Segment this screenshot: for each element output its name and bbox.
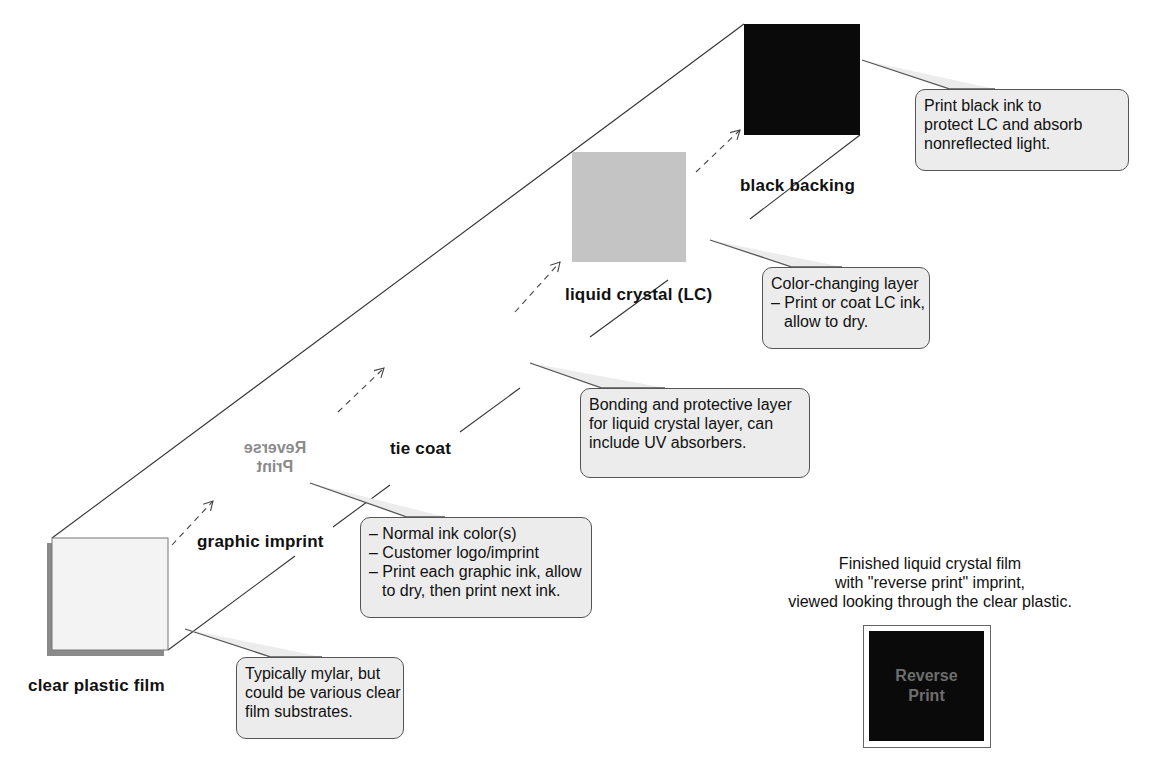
- imprint-line-2: Print: [235, 457, 315, 476]
- finished-sample-black: Reverse Print: [869, 631, 984, 741]
- label-tie-coat: tie coat: [390, 439, 451, 459]
- callout-line: nonreflected light.: [924, 134, 1120, 153]
- callout-line: – Print or coat LC ink,: [771, 293, 921, 312]
- callout-line: allow to dry.: [771, 312, 921, 331]
- callout-line: Print black ink to: [924, 96, 1120, 115]
- callout-line: could be various clear: [245, 683, 395, 702]
- callout-line: Typically mylar, but: [245, 664, 395, 683]
- callout-line: to dry, then print next ink.: [369, 581, 583, 600]
- pointer-tie: [530, 363, 665, 388]
- imprint-line-1: Reverse: [235, 438, 315, 457]
- pointer-graphic: [310, 483, 445, 517]
- clear-film-square: [47, 538, 168, 656]
- callout-line: – Print each graphic ink, allow: [369, 562, 583, 581]
- callout-line: Color-changing layer: [771, 274, 921, 293]
- sample-text-line: Reverse: [895, 666, 957, 686]
- callout-line: – Normal ink color(s): [369, 524, 583, 543]
- callout-line: Bonding and protective layer: [589, 395, 801, 414]
- lc-square: [572, 152, 686, 262]
- callout-clear-plastic-film: Typically mylar, but could be various cl…: [236, 657, 404, 739]
- pointer-black: [862, 60, 995, 89]
- callout-black-backing: Print black ink to protect LC and absorb…: [915, 89, 1129, 171]
- pointer-clear: [185, 629, 322, 657]
- callout-tie-coat: Bonding and protective layer for liquid …: [580, 388, 810, 478]
- callout-liquid-crystal: Color-changing layer – Print or coat LC …: [762, 267, 930, 349]
- finished-caption: Finished liquid crystal film with "rever…: [752, 554, 1108, 611]
- reverse-print-imprint: Reverse Print: [235, 438, 315, 476]
- sample-text-line: Print: [908, 686, 944, 706]
- callout-line: protect LC and absorb: [924, 115, 1120, 134]
- caption-line: with "reverse print" imprint,: [752, 573, 1108, 592]
- callout-line: film substrates.: [245, 702, 395, 721]
- callout-line: for liquid crystal layer, can: [589, 414, 801, 433]
- callout-line: – Customer logo/imprint: [369, 543, 583, 562]
- finished-sample: Reverse Print: [863, 625, 991, 748]
- callout-graphic-imprint: – Normal ink color(s) – Customer logo/im…: [360, 517, 592, 618]
- label-black-backing: black backing: [740, 176, 855, 196]
- label-graphic-imprint: graphic imprint: [197, 532, 324, 552]
- black-square: [744, 24, 860, 135]
- label-liquid-crystal: liquid crystal (LC): [565, 285, 712, 305]
- label-clear-plastic-film: clear plastic film: [28, 676, 165, 696]
- callout-line: include UV absorbers.: [589, 433, 801, 452]
- caption-line: Finished liquid crystal film: [752, 554, 1108, 573]
- caption-line: viewed looking through the clear plastic…: [752, 592, 1108, 611]
- pointer-lc: [710, 240, 842, 267]
